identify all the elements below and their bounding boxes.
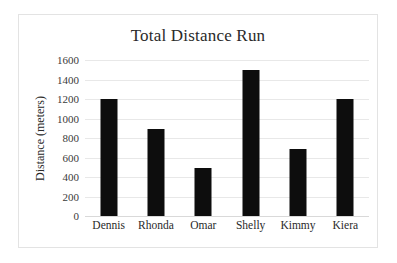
bar-series: [85, 60, 369, 216]
bar: [195, 168, 212, 216]
y-axis-tick-label: 400: [63, 171, 80, 183]
bar: [337, 99, 354, 216]
x-axis-tick-label: Kiera: [333, 219, 359, 231]
y-axis-title: Distance (meters): [33, 60, 47, 216]
chart-frame: Total Distance Run Distance (meters) 020…: [18, 14, 378, 248]
bar-slot: [85, 60, 132, 216]
bar-slot: [274, 60, 321, 216]
y-axis-title-label: Distance (meters): [33, 96, 48, 181]
x-axis-ticks: DennisRhondaOmarShellyKimmyKiera: [85, 219, 369, 237]
x-axis-tick-label: Rhonda: [138, 219, 174, 231]
x-axis-tick-label: Shelly: [236, 219, 265, 231]
bar: [289, 149, 306, 216]
y-axis-tick-label: 1200: [57, 93, 79, 105]
x-axis-tick-label: Omar: [190, 219, 216, 231]
plot-area: 02004006008001000120014001600: [85, 60, 369, 216]
bar-slot: [322, 60, 369, 216]
y-axis-tick-label: 600: [63, 152, 80, 164]
bar: [100, 99, 117, 216]
y-axis-tick-label: 200: [63, 191, 80, 203]
bar: [242, 70, 259, 216]
bar-slot: [180, 60, 227, 216]
bar-slot: [132, 60, 179, 216]
y-axis-tick-label: 0: [74, 210, 80, 222]
bar-slot: [227, 60, 274, 216]
gridline: [85, 216, 369, 217]
y-axis-tick-label: 1400: [57, 74, 79, 86]
chart-title: Total Distance Run: [19, 26, 377, 46]
y-axis-tick-label: 1000: [57, 113, 79, 125]
x-axis-tick-label: Kimmy: [280, 219, 315, 231]
x-axis-tick-label: Dennis: [92, 219, 125, 231]
y-axis-tick-label: 800: [63, 132, 80, 144]
y-axis-tick-label: 1600: [57, 54, 79, 66]
bar: [147, 129, 164, 216]
